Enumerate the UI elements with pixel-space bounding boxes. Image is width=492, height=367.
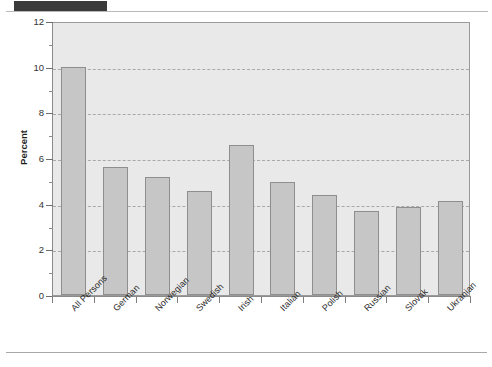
bar [145,177,170,295]
y-axis-tick-label: 12 [14,17,44,27]
y-axis-tick-label: 10 [14,63,44,73]
y-axis-title: Percent [18,118,29,178]
bar [438,201,463,295]
x-axis-tick [261,297,262,303]
bar [270,182,295,295]
gridline [53,69,469,70]
x-axis-tick [52,297,53,303]
bar [396,207,421,295]
x-axis-tick [177,297,178,303]
bar [312,195,337,295]
y-axis-minor-tick [49,91,53,92]
x-axis-tick [428,297,429,303]
y-axis-tick-label: 4 [14,200,44,210]
bar [187,191,212,295]
y-axis-tick [46,159,53,160]
y-axis-tick [46,22,53,23]
bar-chart: 024681012 Percent All PersonsGermanNorwe… [0,0,492,367]
y-axis-minor-tick [49,45,53,46]
y-axis-tick-labels: 024681012 [8,0,44,367]
y-axis-tick-label: 8 [14,108,44,118]
gridline [53,114,469,115]
x-axis-tick [136,297,137,303]
chart-page: 024681012 Percent All PersonsGermanNorwe… [0,0,492,367]
y-axis-tick [46,250,53,251]
gridline [53,160,469,161]
y-axis-tick [46,205,53,206]
x-axis-tick [345,297,346,303]
bar [103,167,128,295]
bar [354,211,379,295]
y-axis-minor-tick [49,273,53,274]
bar [229,145,254,295]
footer-divider-rule [6,352,487,353]
y-axis-tick-label: 2 [14,245,44,255]
bar [61,67,86,295]
plot-area [52,22,470,296]
y-axis-minor-tick [49,228,53,229]
y-axis-tick [46,113,53,114]
y-axis-minor-tick [49,182,53,183]
x-axis-tick [386,297,387,303]
x-axis-tick [94,297,95,303]
x-axis-tick [303,297,304,303]
x-axis-tick [470,297,471,303]
y-axis-minor-tick [49,136,53,137]
y-axis-tick-label: 0 [14,291,44,301]
y-axis-tick [46,68,53,69]
x-axis-tick [219,297,220,303]
